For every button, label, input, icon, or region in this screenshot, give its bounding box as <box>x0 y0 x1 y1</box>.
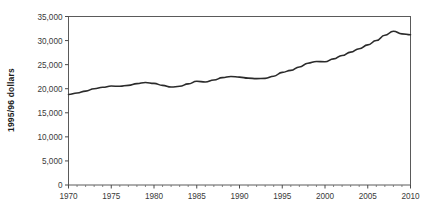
y-tick-label: 30,000 <box>37 37 62 46</box>
y-axis-tick-labels: 05,00010,00015,00020,00025,00030,00035,0… <box>37 13 62 191</box>
x-tick-label: 1990 <box>230 192 249 201</box>
x-tick-label: 1970 <box>59 192 78 201</box>
y-tick-label: 20,000 <box>37 85 62 94</box>
x-tick-label: 2000 <box>316 192 335 201</box>
y-tick-label: 10,000 <box>37 133 62 142</box>
series-group <box>69 31 411 94</box>
x-tick-label: 2010 <box>401 192 420 201</box>
y-tick-label: 0 <box>58 181 63 190</box>
y-axis-title: 1995/96 dollars <box>6 68 16 132</box>
x-tick-label: 1995 <box>273 192 292 201</box>
plot-frame <box>69 17 411 186</box>
line-chart: 05,00010,00015,00020,00025,00030,00035,0… <box>0 0 427 211</box>
y-axis-ticks <box>65 17 69 186</box>
y-tick-label: 5,000 <box>42 157 63 166</box>
y-tick-label: 25,000 <box>37 61 62 70</box>
y-tick-label: 35,000 <box>37 13 62 22</box>
x-tick-label: 1985 <box>188 192 207 201</box>
x-tick-label: 1975 <box>102 192 121 201</box>
x-tick-label: 1980 <box>145 192 164 201</box>
y-tick-label: 15,000 <box>37 109 62 118</box>
series-line <box>69 31 411 94</box>
chart-container: 05,00010,00015,00020,00025,00030,00035,0… <box>0 0 427 211</box>
x-axis-tick-labels: 197019751980198519901995200020052010 <box>59 192 420 201</box>
x-tick-label: 2005 <box>359 192 378 201</box>
